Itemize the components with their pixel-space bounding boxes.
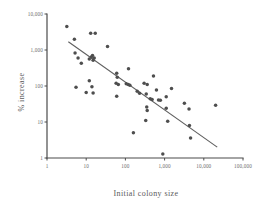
data-point [91,91,95,95]
data-point [164,95,168,99]
data-point [73,51,77,55]
data-point [106,45,110,49]
data-point [80,61,84,64]
data-point [93,32,97,36]
data-point [144,119,148,123]
data-point [138,91,142,95]
data-point [189,136,193,140]
data-point [170,87,174,91]
data-point [88,79,92,83]
data-point [116,76,120,80]
x-tick-label: 1,000 [158,163,171,169]
data-points [65,25,217,156]
data-point [145,109,149,113]
data-point [159,99,163,103]
data-point [128,83,132,87]
data-point [144,92,148,96]
data-point [183,102,187,106]
data-point [115,72,119,76]
y-tick-label: 1 [40,155,43,161]
data-point [164,107,168,111]
data-point [89,32,93,36]
x-tick-label: 10 [83,163,89,169]
data-point [117,83,121,87]
data-point [84,91,88,95]
data-point [132,131,136,135]
y-tick-label: 10,000 [28,11,43,17]
data-point [155,88,159,92]
y-tick-label: 1,000 [31,47,44,53]
x-tick-label: 100,000 [234,163,252,169]
x-tick-label: 10,000 [196,163,211,169]
data-point [145,83,149,87]
data-point [73,37,77,41]
data-point [127,67,131,71]
y-tick-label: 10 [38,119,44,125]
data-point [187,107,191,111]
data-point [90,85,94,89]
data-point [150,98,154,102]
x-tick-label: 1 [46,163,49,169]
data-point [214,104,218,108]
data-point [115,94,119,98]
data-point [152,74,156,78]
data-point [74,86,78,90]
data-point [142,81,146,85]
data-point [161,152,165,156]
x-tick-label: 100 [121,163,129,169]
plot-area: 1101001,00010,0001101001,00010,000100,00… [0,0,262,205]
data-point [145,105,149,109]
y-tick-label: 100 [35,83,43,89]
axis-tick-labels: 1101001,00010,0001101001,00010,000100,00… [28,11,252,169]
data-point [92,56,96,60]
scatter-chart: 1101001,00010,0001101001,00010,000100,00… [0,0,262,205]
x-axis-title: Initial colony size [114,189,179,198]
data-point [65,25,69,29]
y-axis-title: % increase [17,73,26,112]
data-point [166,119,170,123]
data-point [76,56,80,60]
data-point [188,124,192,128]
